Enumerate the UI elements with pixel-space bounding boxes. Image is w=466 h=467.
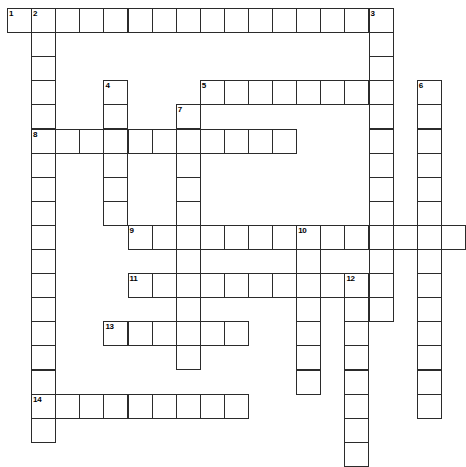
crossword-cell-numbered-8[interactable]: 8 [31, 129, 56, 154]
crossword-cell[interactable] [176, 297, 201, 322]
crossword-cell[interactable] [248, 273, 273, 298]
crossword-cell[interactable] [344, 225, 369, 250]
crossword-cell[interactable] [417, 225, 442, 250]
crossword-cell[interactable] [417, 297, 442, 322]
crossword-cell[interactable] [417, 104, 442, 129]
crossword-cell[interactable] [320, 8, 345, 33]
crossword-cell-numbered-7[interactable]: 7 [176, 104, 201, 129]
crossword-cell[interactable] [344, 345, 369, 370]
crossword-cell[interactable] [55, 129, 80, 154]
crossword-cell[interactable] [152, 8, 177, 33]
crossword-cell[interactable] [128, 8, 153, 33]
crossword-cell[interactable] [344, 8, 369, 33]
crossword-cell[interactable] [417, 153, 442, 178]
crossword-cell[interactable] [31, 80, 56, 105]
crossword-cell[interactable] [224, 80, 249, 105]
crossword-cell[interactable] [176, 273, 201, 298]
crossword-cell[interactable] [176, 153, 201, 178]
crossword-cell[interactable] [296, 370, 321, 395]
crossword-cell[interactable] [103, 201, 128, 226]
crossword-cell[interactable] [296, 80, 321, 105]
crossword-cell[interactable] [224, 321, 249, 346]
crossword-cell[interactable] [31, 345, 56, 370]
crossword-cell[interactable] [103, 153, 128, 178]
crossword-cell[interactable] [369, 273, 394, 298]
crossword-cell[interactable] [31, 225, 56, 250]
crossword-cell[interactable] [417, 321, 442, 346]
crossword-cell[interactable] [369, 129, 394, 154]
crossword-cell[interactable] [417, 129, 442, 154]
crossword-cell[interactable] [417, 201, 442, 226]
crossword-cell[interactable] [128, 321, 153, 346]
crossword-cell[interactable] [344, 321, 369, 346]
crossword-cell[interactable] [248, 129, 273, 154]
crossword-cell-numbered-3[interactable]: 3 [369, 8, 394, 33]
crossword-cell[interactable] [200, 394, 225, 419]
crossword-cell[interactable] [272, 129, 297, 154]
crossword-cell[interactable] [344, 370, 369, 395]
crossword-cell[interactable] [320, 225, 345, 250]
crossword-cell[interactable] [176, 8, 201, 33]
crossword-cell[interactable] [441, 225, 466, 250]
crossword-cell[interactable] [248, 80, 273, 105]
crossword-cell[interactable] [176, 321, 201, 346]
crossword-cell[interactable] [224, 129, 249, 154]
crossword-cell[interactable] [224, 394, 249, 419]
crossword-cell-numbered-4[interactable]: 4 [103, 80, 128, 105]
crossword-cell-numbered-1[interactable]: 1 [7, 8, 32, 33]
crossword-cell[interactable] [417, 249, 442, 274]
crossword-cell[interactable] [224, 225, 249, 250]
crossword-cell[interactable] [417, 394, 442, 419]
crossword-cell[interactable] [369, 249, 394, 274]
crossword-cell[interactable] [369, 80, 394, 105]
crossword-cell[interactable] [103, 129, 128, 154]
crossword-cell[interactable] [176, 201, 201, 226]
crossword-cell[interactable] [320, 273, 345, 298]
crossword-cell[interactable] [369, 32, 394, 57]
crossword-cell[interactable] [152, 273, 177, 298]
crossword-cell[interactable] [393, 225, 418, 250]
crossword-cell[interactable] [272, 8, 297, 33]
crossword-cell[interactable] [128, 394, 153, 419]
crossword-cell[interactable] [176, 345, 201, 370]
crossword-cell[interactable] [31, 418, 56, 443]
crossword-cell-numbered-10[interactable]: 10 [296, 225, 321, 250]
crossword-cell-numbered-11[interactable]: 11 [128, 273, 153, 298]
crossword-cell[interactable] [31, 201, 56, 226]
crossword-cell[interactable] [417, 273, 442, 298]
crossword-cell[interactable] [200, 321, 225, 346]
crossword-cell-numbered-9[interactable]: 9 [128, 225, 153, 250]
crossword-cell-numbered-14[interactable]: 14 [31, 394, 56, 419]
crossword-cell[interactable] [103, 8, 128, 33]
crossword-cell[interactable] [31, 273, 56, 298]
crossword-cell[interactable] [79, 394, 104, 419]
crossword-cell-numbered-2[interactable]: 2 [31, 8, 56, 33]
crossword-cell[interactable] [79, 8, 104, 33]
crossword-cell[interactable] [176, 249, 201, 274]
crossword-cell-numbered-13[interactable]: 13 [103, 321, 128, 346]
crossword-cell[interactable] [103, 177, 128, 202]
crossword-cell[interactable] [272, 80, 297, 105]
crossword-cell[interactable] [296, 345, 321, 370]
crossword-cell[interactable] [369, 297, 394, 322]
crossword-cell[interactable] [369, 201, 394, 226]
crossword-cell[interactable] [152, 225, 177, 250]
crossword-cell[interactable] [55, 394, 80, 419]
crossword-cell[interactable] [31, 370, 56, 395]
crossword-cell[interactable] [296, 249, 321, 274]
crossword-cell[interactable] [344, 394, 369, 419]
crossword-cell[interactable] [272, 273, 297, 298]
crossword-cell[interactable] [31, 153, 56, 178]
crossword-cell[interactable] [369, 177, 394, 202]
crossword-cell[interactable] [31, 104, 56, 129]
crossword-cell[interactable] [296, 8, 321, 33]
crossword-cell[interactable] [369, 104, 394, 129]
crossword-cell[interactable] [152, 394, 177, 419]
crossword-cell[interactable] [248, 8, 273, 33]
crossword-cell[interactable] [417, 345, 442, 370]
crossword-cell[interactable] [31, 249, 56, 274]
crossword-cell[interactable] [152, 321, 177, 346]
crossword-cell[interactable] [176, 129, 201, 154]
crossword-cell[interactable] [369, 225, 394, 250]
